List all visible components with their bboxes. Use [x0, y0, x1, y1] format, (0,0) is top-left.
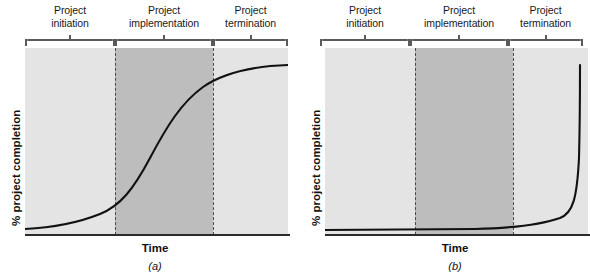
brace-tick: [69, 35, 71, 40]
brace-tick: [163, 35, 165, 40]
brace-initiation-a: [25, 35, 115, 46]
phase-label-termination-b: Project termination: [508, 4, 583, 34]
y-axis-label-b: % project completion: [310, 110, 322, 226]
x-axis-line-a: [25, 234, 290, 236]
brace-tick: [458, 35, 460, 40]
phase-label-line1: Project: [54, 4, 86, 16]
phase-label-implementation-a: Project implementation: [115, 4, 213, 34]
phase-label-line1: Project: [443, 4, 475, 16]
brace-implementation-b: [410, 35, 508, 46]
x-axis-label-a: Time: [95, 242, 215, 254]
brace-tick: [545, 35, 547, 40]
phase-label-line2: termination: [213, 17, 288, 30]
phase-label-line2: implementation: [410, 17, 508, 30]
curve-svg-a: [25, 48, 288, 235]
phase-label-line2: initiation: [320, 17, 410, 30]
phase-label-termination-a: Project termination: [213, 4, 288, 34]
curve-svg-b: [325, 48, 588, 235]
brace-tick: [250, 35, 252, 40]
phase-label-line2: implementation: [115, 17, 213, 30]
x-axis-line-b: [325, 234, 590, 236]
panel-b: Project initiation Project implementatio…: [295, 0, 590, 280]
plot-area-b: [325, 48, 588, 235]
panel-caption-b: (b): [395, 260, 515, 272]
brace-termination-a: [213, 35, 288, 46]
phase-label-initiation-b: Project initiation: [320, 4, 410, 34]
phase-braces-a: [25, 35, 288, 46]
panel-caption-a: (a): [95, 260, 215, 272]
x-axis-label-b: Time: [395, 242, 515, 254]
phase-label-line1: Project: [235, 4, 267, 16]
phase-label-line2: termination: [508, 17, 583, 30]
phase-braces-b: [320, 35, 583, 46]
s-curve-path-a: [25, 65, 288, 229]
hockey-stick-curve-path-b: [325, 65, 580, 230]
plot-area-a: [25, 48, 288, 235]
phase-label-implementation-b: Project implementation: [410, 4, 508, 34]
phase-label-line1: Project: [530, 4, 562, 16]
phase-label-line1: Project: [349, 4, 381, 16]
brace-implementation-a: [115, 35, 213, 46]
brace-end-right: [581, 39, 583, 46]
phase-label-initiation-a: Project initiation: [25, 4, 115, 34]
brace-end-right: [286, 39, 288, 46]
y-axis-label-a: % project completion: [10, 110, 22, 226]
phase-labels-b: Project initiation Project implementatio…: [320, 4, 583, 34]
brace-initiation-b: [320, 35, 410, 46]
brace-termination-b: [508, 35, 583, 46]
figure-project-s-curves: Project initiation Project implementatio…: [0, 0, 590, 280]
brace-tick: [364, 35, 366, 40]
phase-labels-a: Project initiation Project implementatio…: [25, 4, 288, 34]
panel-a: Project initiation Project implementatio…: [0, 0, 295, 280]
phase-label-line2: initiation: [25, 17, 115, 30]
phase-label-line1: Project: [148, 4, 180, 16]
